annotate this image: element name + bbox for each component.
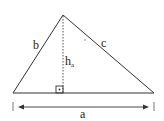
label-b: b [33,38,39,52]
arrow-left-icon [18,105,24,110]
label-h-subscript: a [71,61,75,69]
triangle [13,15,154,93]
arrow-right-icon [143,105,149,110]
label-c: c [101,36,106,50]
label-a: a [80,107,86,121]
triangle-diagram: b c h a a [0,0,164,121]
angle-dot [84,39,85,40]
right-angle-dot [59,89,61,91]
